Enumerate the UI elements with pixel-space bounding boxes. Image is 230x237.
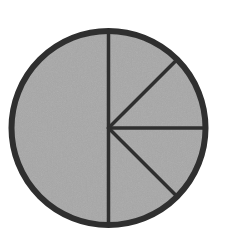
- region-left-half: [12, 31, 109, 225]
- fraction-circle-diagram: [0, 0, 230, 237]
